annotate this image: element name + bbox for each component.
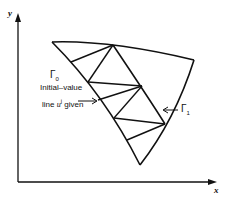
x-axis-label: x <box>214 186 219 195</box>
pointer-arrows <box>78 98 178 113</box>
gamma1-label: Γ1 <box>181 104 190 118</box>
top-boundary <box>52 42 194 60</box>
gamma1-subscript: 1 <box>187 110 190 116</box>
diagram-canvas <box>0 0 229 202</box>
initial-value-label-line1: Initial–value <box>40 83 82 92</box>
gamma0-label: Γ0 <box>50 70 59 84</box>
y-axis-label: y <box>8 9 12 18</box>
gamma0-subscript: 0 <box>56 76 59 82</box>
y-axis-arrow-icon <box>15 13 21 22</box>
initial-value-label-line2: line uj given <box>42 97 83 109</box>
